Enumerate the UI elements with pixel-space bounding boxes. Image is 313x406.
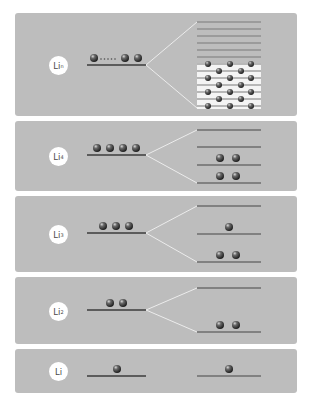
energy-level-graphics	[0, 0, 313, 406]
filled-band	[197, 63, 261, 109]
li-3-group	[87, 206, 261, 262]
fan-line-down	[146, 65, 197, 108]
split-levels	[197, 130, 261, 183]
split-levels	[197, 206, 261, 262]
electron-icon	[90, 54, 98, 62]
fan-line-down	[146, 310, 197, 332]
fan-line-up	[146, 206, 197, 233]
fan-line-up	[146, 288, 197, 310]
split-levels	[197, 288, 261, 332]
fan-line-down	[146, 155, 197, 183]
electron-icon	[121, 54, 129, 62]
li-2-group	[87, 288, 261, 332]
fan-line-down	[146, 233, 197, 262]
li-1-group	[87, 365, 261, 376]
li-n-group	[87, 22, 261, 109]
fan-line-up	[146, 22, 197, 65]
fan-line-up	[146, 130, 197, 155]
ellipsis-dots	[100, 58, 116, 60]
li-4-group	[87, 130, 261, 183]
electron-icon	[134, 54, 142, 62]
